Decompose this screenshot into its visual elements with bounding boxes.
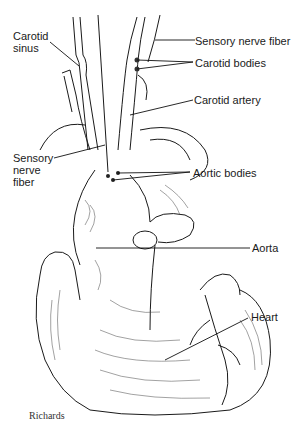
label-aorta: Aorta: [252, 242, 278, 254]
leader-carotid-artery: [130, 100, 193, 115]
label-heart: Heart: [251, 311, 278, 323]
label-sensory-line1: Sensory: [13, 152, 53, 164]
label-sensory-nerve-fiber-left: Sensory nerve fiber: [13, 152, 53, 188]
label-sensory-line2: nerve: [13, 164, 53, 176]
leader-carotid-sinus: [50, 42, 79, 66]
label-carotid-artery: Carotid artery: [194, 94, 261, 106]
artist-signature: Richards: [29, 410, 65, 421]
label-carotid-sinus-line2: sinus: [13, 42, 48, 54]
leader-heart: [165, 318, 248, 360]
leader-sensory-nerve-left: [54, 145, 105, 158]
carotid-aortic-bodies-diagram: Carotid sinus Sensory nerve fiber Caroti…: [0, 0, 293, 427]
label-aortic-bodies: Aortic bodies: [193, 167, 257, 179]
label-carotid-sinus-line1: Carotid: [13, 30, 48, 42]
label-carotid-bodies: Carotid bodies: [195, 57, 266, 69]
label-sensory-line3: fiber: [13, 176, 53, 188]
label-sensory-nerve-fiber-top: Sensory nerve fiber: [195, 35, 290, 47]
label-carotid-sinus: Carotid sinus: [13, 30, 48, 54]
leader-carotid-bodies-1: [137, 60, 193, 62]
leader-carotid-bodies-2: [137, 62, 193, 69]
